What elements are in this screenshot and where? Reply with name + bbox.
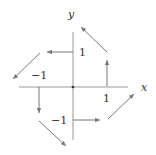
x-pos-tick-label: 1 — [103, 92, 110, 105]
vector-field-diagram: y x 1 −1 1 −1 — [0, 0, 156, 155]
x-neg-tick-label: −1 — [31, 69, 47, 82]
x-axis-label: x — [141, 81, 148, 94]
origin-dot — [72, 86, 75, 89]
y-pos-tick-label: 1 — [79, 46, 86, 59]
y-axis-label: y — [67, 8, 75, 21]
arrow-at-1-neg1 — [108, 94, 134, 119]
y-neg-tick-label: −1 — [51, 114, 67, 127]
